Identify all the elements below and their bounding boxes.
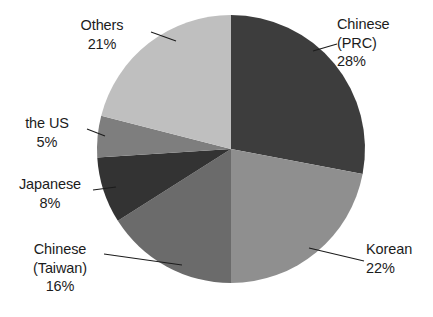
pie-slices [97, 15, 365, 283]
pie-label-chinese-taiwan-line1: Chinese [18, 240, 102, 259]
pie-label-korean: Korean 22% [366, 240, 432, 277]
pie-label-chinese-taiwan: Chinese (Taiwan) 16% [18, 240, 102, 296]
pie-label-the-us: the US 5% [8, 114, 86, 151]
pie-label-chinese-prc: Chinese (PRC) 28% [337, 15, 427, 71]
pie-label-japanese: Japanese 8% [9, 175, 91, 212]
pie-label-japanese-name: Japanese [9, 175, 91, 194]
pie-label-the-us-percent: 5% [8, 133, 86, 152]
pie-label-chinese-prc-line1: Chinese [337, 15, 427, 34]
pie-label-japanese-percent: 8% [9, 194, 91, 213]
pie-label-others-name: Others [58, 16, 146, 35]
pie-label-others-percent: 21% [58, 35, 146, 54]
pie-label-chinese-prc-line2: (PRC) [337, 34, 427, 53]
pie-label-korean-name: Korean [366, 240, 432, 259]
pie-chart: Others 21% Chinese (PRC) 28% the US 5% J… [0, 0, 433, 317]
pie-label-others: Others 21% [58, 16, 146, 53]
pie-label-korean-percent: 22% [366, 259, 432, 278]
leader-line-korean [309, 248, 364, 261]
pie-label-chinese-prc-percent: 28% [337, 52, 427, 71]
pie-label-chinese-taiwan-percent: 16% [18, 277, 102, 296]
pie-label-the-us-name: the US [8, 114, 86, 133]
pie-label-chinese-taiwan-line2: (Taiwan) [18, 259, 102, 278]
